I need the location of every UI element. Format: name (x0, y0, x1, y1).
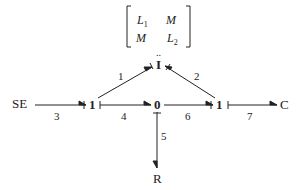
node-resistor: R (153, 171, 162, 186)
node-junction-center: 0 (154, 97, 161, 112)
node-inertia: I (156, 57, 161, 72)
matrix-r1c1: L1 (136, 13, 148, 29)
bond-graph-diagram: L1 M M L2 .. I SE 1 0 1 C R (0, 0, 300, 190)
matrix-r2c1: M (135, 31, 147, 45)
bond-label-1: 1 (118, 70, 124, 82)
bonds (35, 63, 277, 168)
bond-label-4: 4 (121, 110, 127, 122)
bond-label-5: 5 (161, 130, 167, 142)
bond-1 (98, 67, 152, 98)
bond-label-7: 7 (247, 110, 253, 122)
node-source-se: SE (12, 96, 27, 111)
node-capacitor: C (280, 97, 289, 112)
matrix-r2c2: L2 (166, 31, 178, 47)
half-arrow-icon (79, 101, 86, 105)
bond-label-3: 3 (54, 110, 60, 122)
bond-2 (165, 66, 215, 98)
node-junction-right: 1 (216, 97, 223, 112)
matrix-r1c2: M (165, 13, 177, 27)
bond-label-6: 6 (185, 110, 191, 122)
node-junction-left: 1 (89, 97, 96, 112)
bond-label-2: 2 (194, 70, 200, 82)
